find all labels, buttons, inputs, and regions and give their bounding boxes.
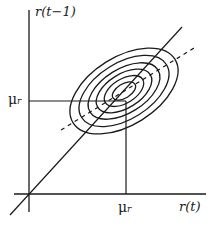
y-axis-label: r(t−1) — [35, 4, 76, 19]
contour-diagram — [0, 0, 215, 226]
y-tick-mu: μr — [8, 91, 21, 107]
x-tick-mu: μr — [118, 199, 131, 215]
x-tick-mu-subscript: r — [127, 204, 131, 214]
y-tick-mu-subscript: r — [17, 96, 21, 106]
x-axis-label: r(t) — [179, 199, 201, 214]
diagonal-line — [10, 27, 182, 215]
y-tick-mu-symbol: μ — [8, 91, 17, 107]
x-tick-mu-symbol: μ — [118, 199, 127, 215]
regression-line — [61, 48, 194, 130]
